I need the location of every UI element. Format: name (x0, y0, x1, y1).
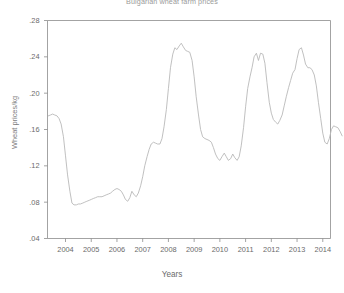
y-tick-label: .16 (14, 125, 40, 134)
y-tick-label: .24 (14, 52, 40, 61)
axes (48, 21, 331, 239)
x-axis-title: Years (0, 270, 344, 279)
y-tick-label: .20 (14, 89, 40, 98)
y-tick-label: .08 (14, 198, 40, 207)
axis-ticks (44, 21, 323, 243)
y-tick-label: .28 (14, 16, 40, 25)
x-tick-label: 2014 (308, 245, 338, 254)
y-tick-label: .12 (14, 161, 40, 170)
chart-title: Bulgarian wheat farm prices (0, 0, 344, 6)
chart-figure: Bulgarian wheat farm prices Wheat prices… (0, 0, 344, 293)
y-axis-title: Wheat prices/kg (10, 73, 19, 173)
y-tick-label: .04 (14, 234, 40, 243)
data-series (48, 43, 342, 205)
